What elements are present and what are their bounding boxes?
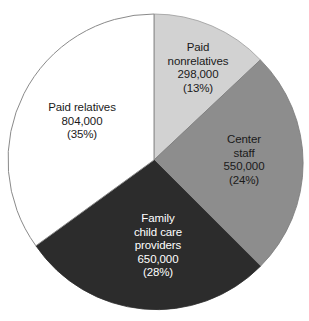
pie-label-center-staff: Center staff 550,000 (24%) bbox=[204, 133, 284, 187]
pie-label-family-child-care-providers: Family child care providers 650,000 (28%… bbox=[106, 212, 210, 280]
pie-label-paid-relatives: Paid relatives 804,000 (35%) bbox=[30, 101, 134, 142]
pie-chart-figure: Paid nonrelatives 298,000 (13%) Center s… bbox=[0, 0, 309, 321]
pie-label-paid-nonrelatives: Paid nonrelatives 298,000 (13%) bbox=[152, 41, 244, 95]
